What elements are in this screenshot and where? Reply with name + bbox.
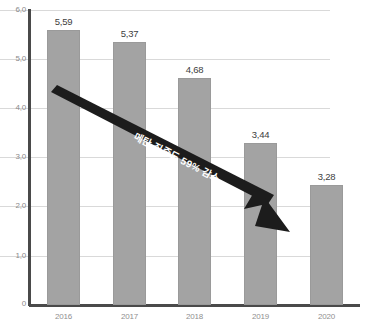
bar-2019 [244, 143, 277, 305]
y-tick-label-5: 5,0 [0, 55, 26, 63]
gridline-6 [0, 10, 330, 11]
bar-value-2020: 3,28 [307, 172, 346, 182]
y-tick-label-1: 1,0 [0, 252, 26, 260]
y-tick-label-0: 0 [0, 300, 26, 308]
bar-value-2018: 4,68 [175, 65, 214, 75]
x-tick-label-2018: 2018 [175, 312, 214, 321]
x-tick-label-2020: 2020 [307, 312, 346, 321]
x-tick-label-2019: 2019 [241, 312, 280, 321]
y-axis-line [28, 9, 31, 306]
bar-value-2017: 5,37 [110, 29, 149, 39]
bar-value-2019: 3,44 [241, 130, 280, 140]
y-tick-label-6: 6,0 [0, 6, 26, 14]
y-tick-label-3: 3,0 [0, 153, 26, 161]
bar-2020 [310, 185, 343, 305]
bar-2017 [113, 42, 146, 305]
bar-2018 [178, 78, 211, 305]
y-tick-label-4: 4,0 [0, 104, 26, 112]
bar-chart: 6,0 5,0 4,0 3,0 2,0 1,0 0 5,59 5,37 4,68… [0, 0, 365, 334]
x-tick-label-2017: 2017 [110, 312, 149, 321]
bar-value-2016: 5,59 [44, 17, 83, 27]
bar-2016 [47, 30, 80, 305]
x-tick-label-2016: 2016 [44, 312, 83, 321]
y-tick-label-2: 2,0 [0, 202, 26, 210]
